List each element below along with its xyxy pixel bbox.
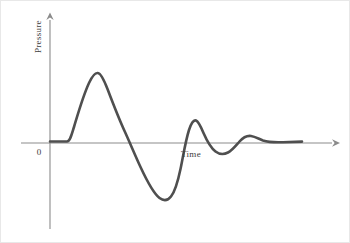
pressure-time-plot: Pressure Time 0 <box>1 1 350 243</box>
x-axis-arrowhead <box>332 139 340 146</box>
y-axis-arrowhead <box>46 13 53 21</box>
origin-label: 0 <box>37 147 42 157</box>
y-axis-label: Pressure <box>33 20 43 53</box>
figure-canvas: Pressure Time 0 <box>0 0 350 243</box>
x-axis-label: Time <box>181 149 201 159</box>
pressure-curve <box>50 73 302 200</box>
